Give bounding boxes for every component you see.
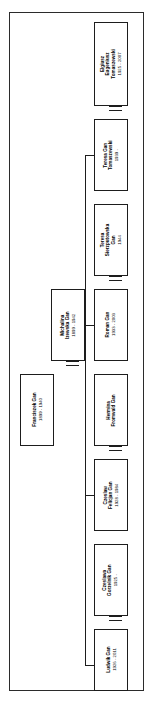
person-label: Michalina Izewska Gan 1899 - 1942 — [60, 311, 76, 339]
person-box-franciszek-gan[interactable]: Franciszek Gan 1899 - 1940 — [20, 374, 54, 446]
person-dates: 1926 - 2011 — [111, 647, 116, 673]
person-name-line-1: Teresa — [100, 224, 105, 256]
spouse-link-teresa-roman — [109, 276, 122, 281]
person-box-roman-gan[interactable]: Roman Gan 1933 - 2003 — [94, 289, 128, 361]
person-label: Elgiusz Eugeniusz Tomaszewski 1925 - 200… — [100, 49, 122, 79]
parent-stem-michalina — [85, 325, 86, 326]
person-box-michalina-izewska-gan[interactable]: Michalina Izewska Gan 1899 - 1942 — [51, 289, 85, 361]
person-box-czeslawa-gorzelnik-gan[interactable]: Czeslawa Gorzelnik Gan 1925 - — [94, 544, 128, 616]
spouse-link-czeslawa-ludwik — [109, 616, 122, 621]
person-dates: 1925 - — [114, 564, 119, 595]
person-name-line-3: Tomaszewski — [111, 49, 116, 79]
sibling-branch-to-roman-gan — [85, 325, 94, 326]
person-label: Hermina Fromwald Gan — [106, 394, 117, 426]
person-label: Franciszek Gan 1899 - 1940 — [31, 393, 42, 427]
person-name-line-3: Gan — [111, 224, 116, 256]
family-tree-canvas: Elgiusz Eugeniusz Tomaszewski 1925 - 200… — [0, 0, 156, 703]
person-dates: 1944 — [117, 224, 122, 256]
person-label: Ludwik Gan 1926 - 2011 — [105, 647, 116, 673]
person-box-teresa-sierzputowska-gan[interactable]: Teresa Sierzputowska Gan 1944 — [94, 204, 128, 276]
person-label: Czeslaw Felicjan Gan 1928 - 1984 — [103, 481, 119, 509]
person-box-hermina-fromwald-gan[interactable]: Hermina Fromwald Gan — [94, 374, 128, 446]
sibling-branch-to-czeslaw-gan — [85, 495, 94, 496]
person-dates: 1899 - 1942 — [71, 311, 76, 339]
person-name-line-2: Felicjan Gan — [108, 481, 113, 509]
person-label: Teresa Gan Tomaszewski 1939 - — [103, 140, 119, 170]
person-dates: 1899 - 1940 — [37, 393, 42, 427]
person-dates: 1933 - 2003 — [111, 312, 116, 338]
person-box-czeslaw-felicjan-gan[interactable]: Czeslaw Felicjan Gan 1928 - 1984 — [94, 459, 128, 531]
person-name-line-2: Sierzputowska — [105, 224, 110, 256]
person-dates: 1928 - 1984 — [114, 481, 119, 509]
person-label: Czeslawa Gorzelnik Gan 1925 - — [103, 564, 119, 595]
person-name-line-2: Tomaszewski — [108, 140, 113, 170]
spouse-link-hermina-czeslaw — [109, 446, 122, 451]
sibling-branch-to-ludwik-gan — [85, 665, 94, 666]
person-label: Roman Gan 1933 - 2003 — [105, 312, 116, 338]
sibling-branch-to-teresa-gan — [85, 155, 94, 156]
person-name-line-2: Izewska Gan — [65, 311, 70, 339]
person-dates: 1925 - 2007 — [117, 49, 122, 79]
person-box-teresa-gan-tomaszewski[interactable]: Teresa Gan Tomaszewski 1939 - — [94, 119, 128, 191]
person-name-line-1: Ludwik Gan — [105, 647, 110, 673]
sibling-bracket-spine — [85, 155, 86, 665]
person-name-line-1: Franciszek Gan — [31, 393, 36, 427]
person-label: Teresa Sierzputowska Gan 1944 — [100, 224, 122, 256]
spouse-link-franciszek-michalina — [66, 361, 79, 366]
person-dates: 1939 - — [114, 140, 119, 170]
person-name-line-2: Gorzelnik Gan — [108, 564, 113, 595]
person-box-ludwik-gan[interactable]: Ludwik Gan 1926 - 2011 — [94, 629, 128, 691]
person-box-elgiusz-tomaszewski[interactable]: Elgiusz Eugeniusz Tomaszewski 1925 - 200… — [94, 22, 128, 106]
person-name-line-1: Roman Gan — [105, 312, 110, 338]
person-name-line-2: Fromwald Gan — [111, 394, 116, 426]
spouse-link-elgiusz-teresa — [109, 106, 122, 111]
